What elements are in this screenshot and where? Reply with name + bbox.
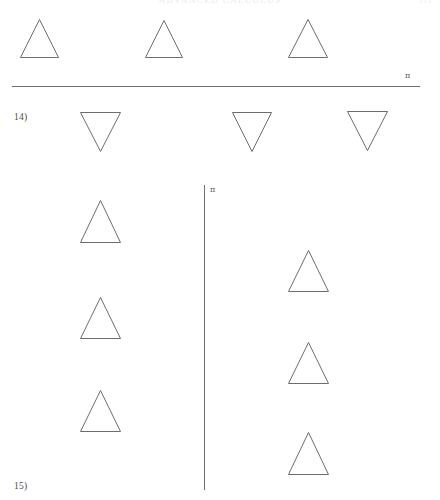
triangle-up-left-3 xyxy=(80,390,121,432)
pi-label-vertical: π xyxy=(210,186,215,194)
page-number: 371 xyxy=(419,0,433,4)
triangle-up-3 xyxy=(288,19,328,58)
triangle-up-2 xyxy=(145,20,183,58)
triangle-up-left-1 xyxy=(80,200,121,243)
triangle-up-1 xyxy=(20,19,59,58)
vertical-axis-rule xyxy=(204,185,205,490)
problem-label-14: 14) xyxy=(14,113,28,123)
triangle-down-2 xyxy=(232,112,272,152)
problem-label-15: 15) xyxy=(14,482,28,492)
triangle-down-1 xyxy=(80,112,121,152)
scanned-page: ADVANCED CALCULUS 371 π 14) π 15) xyxy=(0,0,440,500)
running-header: ADVANCED CALCULUS xyxy=(0,0,440,4)
triangle-up-right-2 xyxy=(288,342,329,384)
pi-label-horizontal: π xyxy=(405,72,410,80)
horizontal-axis-rule xyxy=(12,86,420,87)
triangle-up-right-1 xyxy=(288,250,329,292)
triangle-up-right-3 xyxy=(288,432,329,475)
triangle-up-left-2 xyxy=(80,297,121,339)
triangle-down-3 xyxy=(347,111,388,151)
